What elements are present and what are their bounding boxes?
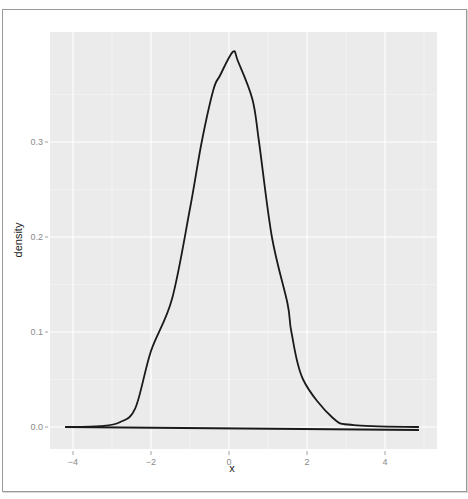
x-axis-title: x: [229, 462, 235, 474]
y-axis: 0.00.10.20.3: [30, 137, 48, 432]
density-plot: 0.00.10.20.3 −4−2024 x density: [0, 0, 468, 499]
x-tick-label: 2: [304, 457, 309, 467]
x-tick-label: 4: [382, 457, 387, 467]
y-tick-label: 0.1: [30, 327, 43, 337]
x-tick-label: −2: [146, 457, 156, 467]
x-tick-label: −4: [68, 457, 78, 467]
x-axis: −4−2024: [68, 451, 388, 467]
y-tick-label: 0.0: [30, 422, 43, 432]
y-tick-label: 0.2: [30, 232, 43, 242]
y-tick-label: 0.3: [30, 137, 43, 147]
y-axis-title: density: [12, 222, 24, 257]
